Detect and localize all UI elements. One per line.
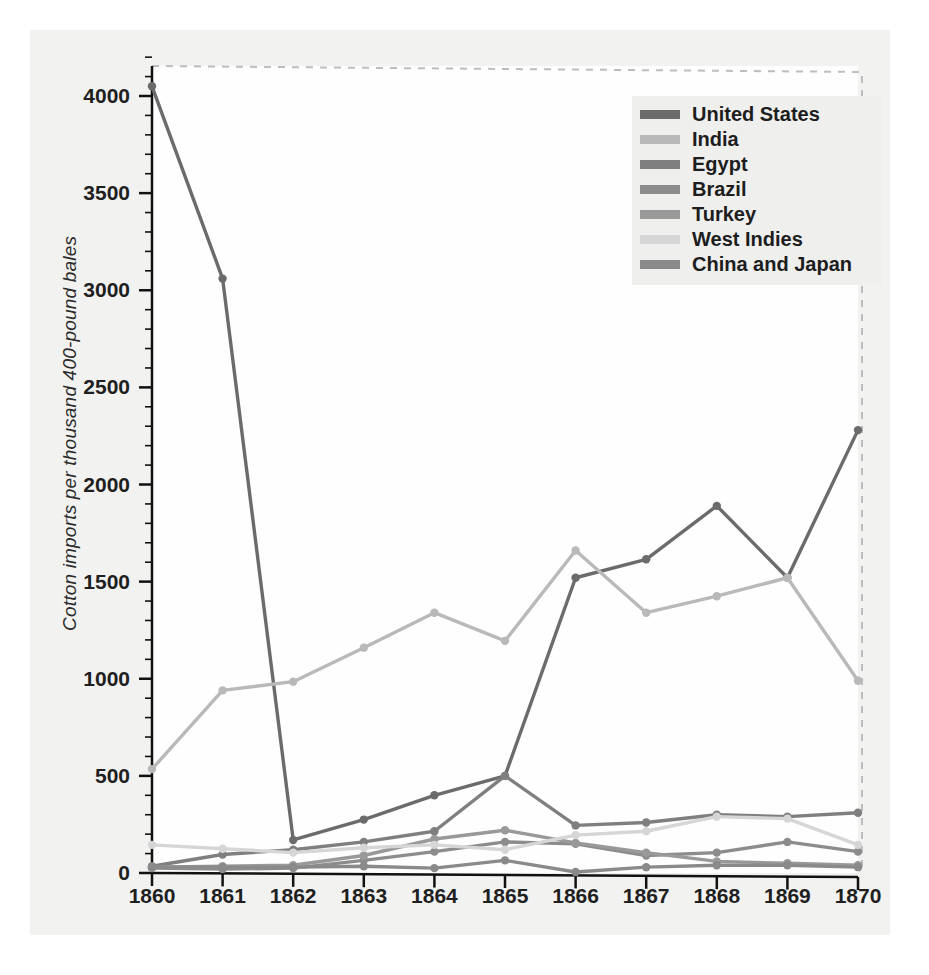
x-axis-tick-label: 1868 [682, 884, 752, 908]
data-point [360, 862, 368, 870]
data-point [571, 868, 579, 876]
legend-item-label: Egypt [692, 153, 748, 176]
legend-item-china-and-japan[interactable]: China and Japan [640, 252, 874, 277]
legend-item-label: Brazil [692, 178, 746, 201]
legend-swatch-icon [640, 210, 680, 219]
data-point [713, 812, 721, 820]
data-point [148, 863, 156, 871]
x-axis-tick-label: 1867 [611, 884, 681, 908]
y-axis-tick-label: 4000 [66, 84, 130, 108]
x-axis-tick-label: 1863 [329, 884, 399, 908]
data-point [148, 765, 156, 773]
data-point [148, 82, 156, 90]
data-point [642, 609, 650, 617]
y-axis-tick-label: 1500 [66, 570, 130, 594]
legend-item-label: China and Japan [692, 253, 852, 276]
data-point [501, 845, 509, 853]
data-point [218, 863, 226, 871]
data-point [854, 809, 862, 817]
data-point [430, 827, 438, 835]
data-point [571, 546, 579, 554]
legend-item-united-states[interactable]: United States [640, 102, 874, 127]
data-point [713, 592, 721, 600]
legend-swatch-icon [640, 260, 680, 269]
x-axis-tick-label: 1865 [470, 884, 540, 908]
y-axis-tick-label: 2500 [66, 375, 130, 399]
x-axis-tick-label: 1862 [258, 884, 328, 908]
legend-item-label: United States [692, 103, 820, 126]
data-point [289, 836, 297, 844]
y-axis-tick-label: 3500 [66, 181, 130, 205]
data-point [148, 841, 156, 849]
legend-item-west-indies[interactable]: West Indies [640, 227, 874, 252]
y-axis-tick-label: 3000 [66, 278, 130, 302]
data-point [642, 863, 650, 871]
x-axis-tick-label: 1870 [823, 884, 893, 908]
data-point [783, 861, 791, 869]
legend-swatch-icon [640, 135, 680, 144]
legend-item-egypt[interactable]: Egypt [640, 152, 874, 177]
data-point [289, 677, 297, 685]
data-point [430, 864, 438, 872]
data-point [783, 574, 791, 582]
data-point [713, 861, 721, 869]
data-point [218, 845, 226, 853]
data-point [289, 848, 297, 856]
data-point [501, 856, 509, 864]
chart-page: Cotton imports per thousand 400-pound ba… [0, 0, 929, 975]
data-point [430, 791, 438, 799]
x-axis-tick-label: 1861 [188, 884, 258, 908]
data-point [360, 851, 368, 859]
y-axis-tick-label: 1000 [66, 667, 130, 691]
data-point [501, 637, 509, 645]
legend-swatch-icon [640, 110, 680, 119]
legend-swatch-icon [640, 235, 680, 244]
legend-item-label: Turkey [692, 203, 756, 226]
data-point [571, 831, 579, 839]
data-point [642, 818, 650, 826]
data-point [501, 838, 509, 846]
legend-swatch-icon [640, 160, 680, 169]
data-point [571, 821, 579, 829]
data-point [430, 609, 438, 617]
chart-legend: United StatesIndiaEgyptBrazilTurkeyWest … [632, 96, 882, 285]
legend-item-label: West Indies [692, 228, 803, 251]
data-point [642, 848, 650, 856]
data-point [854, 676, 862, 684]
y-axis-tick-label: 2000 [66, 473, 130, 497]
y-axis-tick-label: 0 [66, 861, 130, 885]
legend-item-turkey[interactable]: Turkey [640, 202, 874, 227]
data-point [854, 841, 862, 849]
data-point [501, 826, 509, 834]
legend-swatch-icon [640, 185, 680, 194]
data-point [713, 502, 721, 510]
data-point [642, 555, 650, 563]
data-point [501, 772, 509, 780]
data-point [571, 839, 579, 847]
data-point [360, 815, 368, 823]
data-point [854, 426, 862, 434]
y-axis-tick-label: 500 [66, 764, 130, 788]
data-point [430, 841, 438, 849]
data-point [289, 863, 297, 871]
x-axis-tick-label: 1860 [117, 884, 187, 908]
data-point [218, 274, 226, 282]
data-point [783, 838, 791, 846]
line-chart-figure: Cotton imports per thousand 400-pound ba… [0, 0, 929, 975]
legend-item-brazil[interactable]: Brazil [640, 177, 874, 202]
data-point [360, 844, 368, 852]
data-point [642, 827, 650, 835]
data-point [783, 814, 791, 822]
data-point [713, 848, 721, 856]
data-point [854, 863, 862, 871]
x-axis-tick-label: 1864 [399, 884, 469, 908]
x-axis-tick-label: 1869 [752, 884, 822, 908]
x-axis-tick-label: 1866 [541, 884, 611, 908]
data-point [360, 643, 368, 651]
legend-item-india[interactable]: India [640, 127, 874, 152]
data-point [218, 686, 226, 694]
legend-item-label: India [692, 128, 739, 151]
data-point [571, 574, 579, 582]
